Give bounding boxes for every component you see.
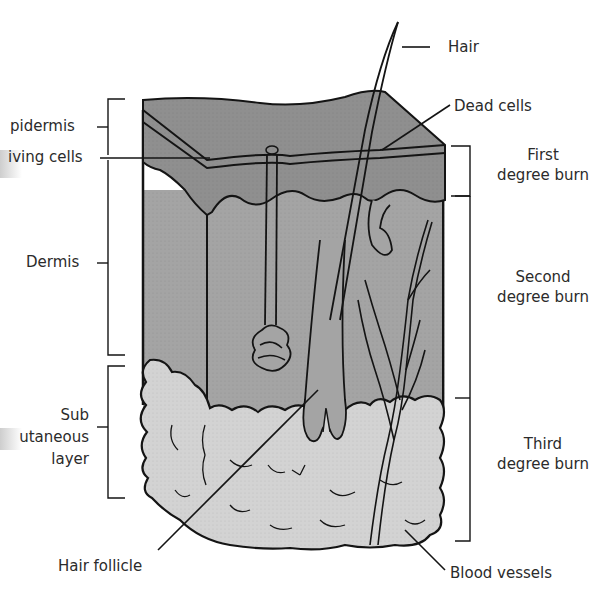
label-dermis: Dermis <box>26 253 79 272</box>
label-subcutaneous-line3: layer <box>30 450 89 469</box>
label-first-degree-burn-line2: degree burn <box>478 166 608 185</box>
label-epidermis: pidermis <box>10 117 75 136</box>
label-hair: Hair <box>448 38 479 57</box>
label-hair-follicle: Hair follicle <box>58 557 142 576</box>
left-brackets <box>97 99 125 498</box>
label-third-degree-burn-line1: Third <box>478 435 608 454</box>
label-second-degree-burn-line1: Second <box>478 268 608 287</box>
label-third-degree-burn-line2: degree burn <box>478 455 608 474</box>
right-brackets <box>451 146 470 541</box>
label-subcutaneous-line1: Sub <box>30 406 89 425</box>
label-subcutaneous-line2: utaneous <box>0 428 89 447</box>
label-living-cells: iving cells <box>8 148 83 167</box>
label-second-degree-burn-line2: degree burn <box>478 288 608 307</box>
label-blood-vessels: Blood vessels <box>450 564 552 583</box>
label-first-degree-burn-line1: First <box>478 146 608 165</box>
label-dead-cells: Dead cells <box>454 97 532 116</box>
